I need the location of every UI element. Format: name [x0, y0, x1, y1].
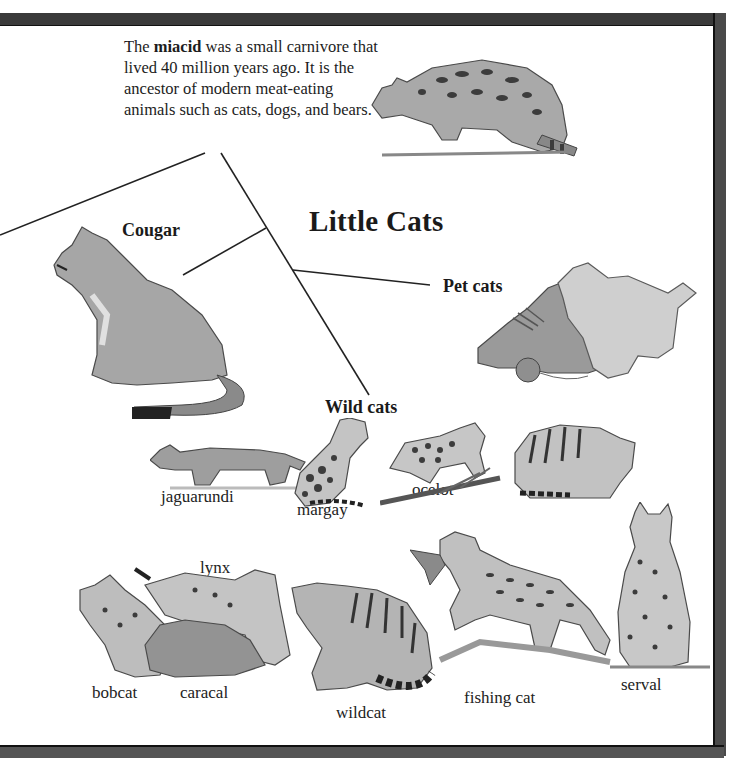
pet-cats-illustration — [468, 258, 698, 388]
label-bobcat: bobcat — [92, 683, 137, 703]
serval-illustration — [610, 502, 710, 672]
margay-illustration — [290, 418, 390, 508]
ocelot-illustration — [380, 418, 510, 508]
fishing-cat-illustration — [410, 530, 620, 670]
cougar-illustration — [52, 225, 257, 425]
bobcat-lynx-caracal-illustration — [75, 565, 300, 685]
label-wild-cats: Wild cats — [325, 397, 397, 418]
miacid-illustration — [362, 40, 582, 160]
jaguarundi-illustration — [150, 440, 310, 490]
label-serval: serval — [621, 675, 662, 695]
miacid-term: miacid — [154, 37, 202, 56]
page-title: Little Cats — [309, 205, 444, 238]
label-jaguarundi: jaguarundi — [161, 487, 234, 507]
label-caracal: caracal — [180, 683, 228, 703]
label-wildcat: wildcat — [336, 703, 386, 723]
manul-illustration — [510, 423, 640, 503]
label-fishing-cat: fishing cat — [464, 688, 535, 708]
miacid-caption: The miacid was a small carnivore that li… — [124, 36, 384, 120]
